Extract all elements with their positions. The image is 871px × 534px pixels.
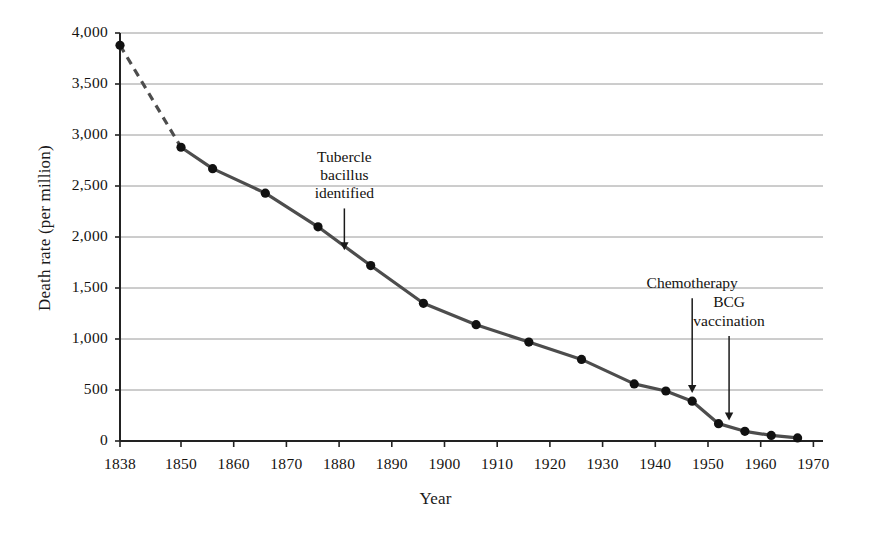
data-point [740,427,749,436]
data-point [793,433,802,442]
data-point [688,397,697,406]
data-point [767,431,776,440]
data-point [366,261,375,270]
annotation-line: vaccination [629,312,829,330]
annotation-arrow-head [688,385,696,393]
data-point [419,299,428,308]
x-axis-title: Year [0,489,871,509]
data-point [714,419,723,428]
annotation-line: identified [244,184,444,202]
y-tick-label: 1,500 [28,278,108,296]
annotation-line: BCG [629,293,829,311]
data-point [577,355,586,364]
y-tick-label: 0 [28,431,108,449]
gridlines [120,33,823,390]
plot-area [0,0,871,534]
data-point [661,386,670,395]
data-point [208,164,217,173]
x-tick-label: 1970 [778,455,848,473]
y-tick-label: 4,000 [28,23,108,41]
annotation-line: Chemotherapy [592,274,792,292]
annotation-tubercle-bacillus-identified: Tuberclebacillusidentified [244,148,444,203]
annotation-line: Tubercle [244,148,444,166]
y-tick-label: 3,000 [28,125,108,143]
data-point [472,320,481,329]
data-point [313,222,322,231]
data-point [630,379,639,388]
y-tick-label: 1,000 [28,329,108,347]
series-line-dashed [120,45,181,147]
data-point [176,143,185,152]
data-series [120,45,798,438]
tuberculosis-death-rate-chart: Death rate (per million) Year 05001,0001… [0,0,871,534]
data-point [524,337,533,346]
y-tick-label: 2,000 [28,227,108,245]
annotation-arrow-head [725,413,733,421]
y-tick-label: 2,500 [28,176,108,194]
annotation-bcg-vaccination: BCGvaccination [629,293,829,330]
y-tick-label: 3,500 [28,74,108,92]
annotation-line: bacillus [244,166,444,184]
data-point-markers [115,41,802,443]
x-tick-label: 1838 [85,455,155,473]
y-tick-label: 500 [28,380,108,398]
data-point [115,41,124,50]
annotation-chemotherapy: Chemotherapy [592,274,792,292]
